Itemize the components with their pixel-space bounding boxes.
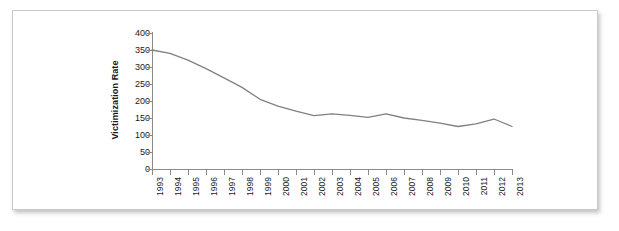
x-tick-label: 2005 bbox=[372, 177, 381, 196]
x-axis-tick bbox=[422, 170, 423, 175]
x-axis-tick bbox=[440, 170, 441, 175]
x-axis-tick bbox=[170, 170, 171, 175]
y-axis-title-label: Victimization Rate bbox=[110, 60, 120, 139]
x-axis-tick bbox=[260, 170, 261, 175]
x-axis-tick bbox=[206, 170, 207, 175]
screenshot-root: Victimization Rate 050100150200250300350… bbox=[0, 0, 619, 231]
x-tick-label: 1997 bbox=[228, 177, 237, 196]
x-axis-tick bbox=[278, 170, 279, 175]
x-tick-label: 2011 bbox=[480, 177, 489, 195]
y-axis-tick-labels: 050100150200250300350400 bbox=[122, 0, 150, 231]
x-axis-tick bbox=[476, 170, 477, 175]
x-tick-label: 2004 bbox=[354, 177, 363, 196]
x-axis-tick bbox=[368, 170, 369, 175]
x-tick-label: 2006 bbox=[390, 177, 399, 196]
x-axis-tick bbox=[386, 170, 387, 175]
x-axis-tick bbox=[296, 170, 297, 175]
x-tick-label: 1999 bbox=[264, 177, 273, 196]
x-tick-label: 2009 bbox=[444, 177, 453, 196]
x-axis-tick bbox=[404, 170, 405, 175]
x-axis-tick bbox=[458, 170, 459, 175]
x-tick-label: 2001 bbox=[300, 177, 309, 196]
x-axis-tick bbox=[188, 170, 189, 175]
x-tick-label: 1993 bbox=[156, 177, 165, 196]
x-tick-label: 2010 bbox=[462, 177, 471, 196]
x-tick-label: 2007 bbox=[408, 177, 417, 196]
x-tick-label: 2000 bbox=[282, 177, 291, 196]
x-axis-tick bbox=[224, 170, 225, 175]
line-chart: Victimization Rate 050100150200250300350… bbox=[0, 0, 619, 231]
x-tick-label: 1998 bbox=[246, 177, 255, 196]
x-axis-tick bbox=[512, 170, 513, 175]
x-tick-label: 1994 bbox=[174, 177, 183, 196]
x-axis-tick bbox=[332, 170, 333, 175]
x-tick-label: 1996 bbox=[210, 177, 219, 196]
x-tick-label: 1995 bbox=[192, 177, 201, 196]
x-tick-label: 2013 bbox=[516, 177, 525, 196]
data-series-line bbox=[152, 33, 513, 170]
x-axis-tick bbox=[494, 170, 495, 175]
x-axis-tick bbox=[242, 170, 243, 175]
x-tick-label: 2002 bbox=[318, 177, 327, 196]
x-axis-tick bbox=[152, 170, 153, 175]
x-axis-tick bbox=[314, 170, 315, 175]
x-tick-label: 2008 bbox=[426, 177, 435, 196]
x-tick-label: 2003 bbox=[336, 177, 345, 196]
x-axis-tick bbox=[350, 170, 351, 175]
x-tick-label: 2012 bbox=[498, 177, 507, 196]
